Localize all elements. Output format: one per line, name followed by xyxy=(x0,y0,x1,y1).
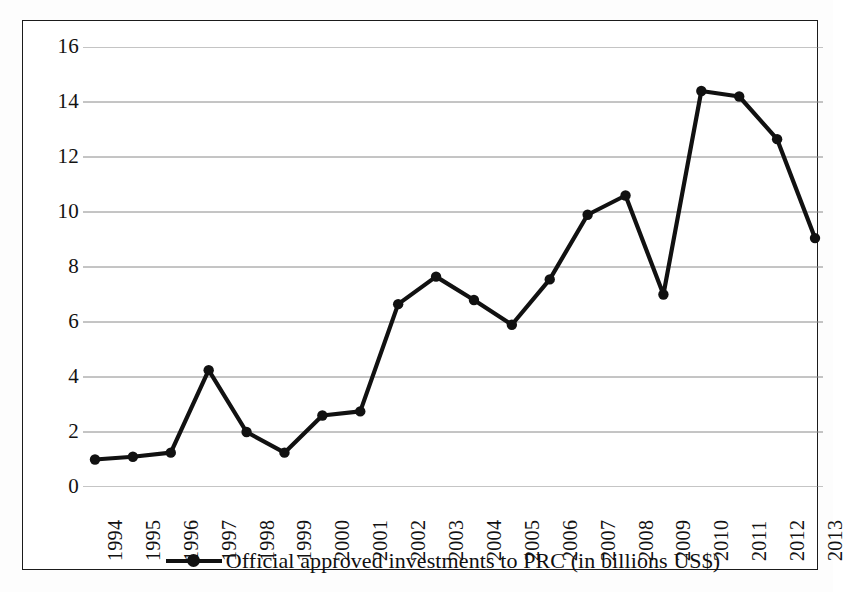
legend-line-marker-icon xyxy=(166,552,222,570)
chart-frame: 0246810121416 19941995199619971998199920… xyxy=(22,20,818,570)
data-point-2013 xyxy=(810,233,820,243)
legend-label: Official approved investments to PRC (in… xyxy=(226,549,720,573)
y-tick-label-10: 10 xyxy=(45,201,79,222)
chart-legend: Official approved investments to PRC (in… xyxy=(45,541,841,581)
y-tick-label-14: 14 xyxy=(45,91,79,112)
y-tick-label-2: 2 xyxy=(45,421,79,442)
data-point-1994 xyxy=(90,454,100,464)
data-series-official-approved-investments xyxy=(90,86,820,465)
data-point-2003 xyxy=(431,271,441,281)
data-point-1999 xyxy=(279,447,289,457)
y-axis-tick-labels: 0246810121416 xyxy=(33,41,79,501)
data-point-2002 xyxy=(393,299,403,309)
line-chart-svg xyxy=(83,47,823,487)
legend-entry: Official approved investments to PRC (in… xyxy=(166,549,720,573)
data-point-2004 xyxy=(469,295,479,305)
plot-area xyxy=(83,47,823,487)
y-tick-label-12: 12 xyxy=(45,146,79,167)
series-line xyxy=(95,91,815,460)
data-point-2000 xyxy=(317,410,327,420)
data-point-2006 xyxy=(545,274,555,284)
y-tick-label-6: 6 xyxy=(45,311,79,332)
data-point-2008 xyxy=(620,190,630,200)
y-tick-label-16: 16 xyxy=(45,36,79,57)
gridlines xyxy=(83,47,823,487)
y-tick-label-8: 8 xyxy=(45,256,79,277)
data-point-1997 xyxy=(203,365,213,375)
data-point-2009 xyxy=(658,289,668,299)
data-point-2012 xyxy=(772,134,782,144)
data-point-1998 xyxy=(241,427,251,437)
data-point-1995 xyxy=(128,452,138,462)
data-point-2001 xyxy=(355,406,365,416)
y-tick-label-0: 0 xyxy=(45,476,79,497)
data-point-2005 xyxy=(507,320,517,330)
data-point-2007 xyxy=(582,210,592,220)
data-point-1996 xyxy=(166,447,176,457)
y-tick-label-4: 4 xyxy=(45,366,79,387)
data-point-2010 xyxy=(696,86,706,96)
series-markers xyxy=(90,86,820,465)
data-point-2011 xyxy=(734,91,744,101)
